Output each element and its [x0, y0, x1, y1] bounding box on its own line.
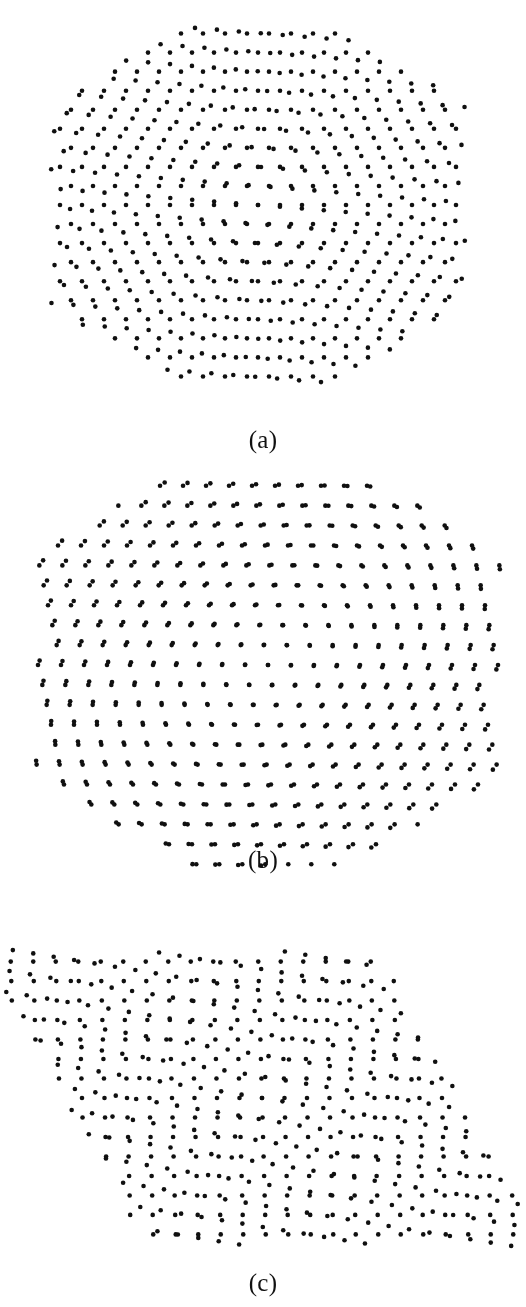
figure-root: (a) (b) (c)	[0, 0, 526, 1307]
panel-caption-c: (c)	[0, 1268, 526, 1298]
moire-plot-b	[0, 470, 526, 890]
panel-c	[0, 890, 526, 1307]
panel-a	[0, 0, 526, 470]
moire-plot-a	[0, 0, 526, 470]
panel-caption-b: (b)	[0, 845, 526, 875]
moire-plot-c	[0, 890, 526, 1307]
panel-b	[0, 470, 526, 890]
panel-caption-a: (a)	[0, 425, 526, 455]
